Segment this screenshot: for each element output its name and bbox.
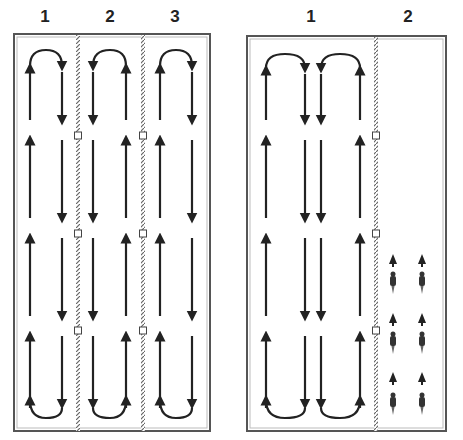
right-pool <box>247 36 446 431</box>
left-pool <box>14 34 210 431</box>
swimmer-group <box>389 254 426 415</box>
pool-lanes-diagram <box>0 0 463 440</box>
